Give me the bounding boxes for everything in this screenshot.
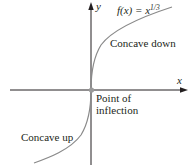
point-of-inflection-label-line2: inflection <box>96 104 139 116</box>
function-exponent: 1/3 <box>150 3 160 12</box>
curve-lower-branch <box>34 90 91 163</box>
x-axis-label: x <box>176 74 182 86</box>
function-label: f(x) = x1/3 <box>117 3 160 17</box>
inflection-diagram: y x f(x) = x1/3 Concave down Point of in… <box>0 0 191 165</box>
y-axis-label: y <box>95 0 101 12</box>
inflection-point <box>89 87 94 92</box>
point-of-inflection-label-line1: Point of <box>96 92 131 104</box>
y-axis-arrow-icon <box>88 2 93 10</box>
concave-up-label: Concave up <box>21 131 74 143</box>
concave-down-label: Concave down <box>110 37 176 49</box>
x-axis-arrow-icon <box>180 87 188 92</box>
